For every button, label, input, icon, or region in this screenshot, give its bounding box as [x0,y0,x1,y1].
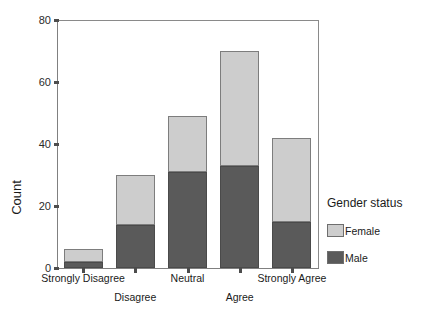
legend-swatch-icon [327,224,344,237]
bar-segment-male[interactable] [168,172,207,268]
plot-border-right [318,20,319,269]
bar-neutral[interactable] [168,116,207,268]
bar-segment-female[interactable] [168,116,207,172]
legend: Gender status FemaleMale [327,196,423,278]
legend-title: Gender status [327,196,423,210]
y-tick-mark [54,267,59,270]
bar-segment-male[interactable] [220,166,259,268]
legend-label: Male [345,252,368,264]
legend-item-male[interactable]: Male [327,251,423,264]
legend-item-female[interactable]: Female [327,224,423,237]
y-tick-label: 40 [39,138,51,150]
x-tick-label: Neutral [171,272,205,284]
bar-segment-female[interactable] [220,51,259,166]
x-tick-label: Strongly Agree [257,272,326,284]
x-tick-mark [239,268,242,273]
y-tick-mark [54,19,59,22]
x-tick-label: Strongly Disagree [41,272,124,284]
y-tick-mark [54,205,59,208]
y-tick-mark [54,143,59,146]
y-tick-label: 20 [39,200,51,212]
y-axis-title: Count [9,158,24,238]
bar-segment-male[interactable] [64,262,103,268]
x-tick-label: Disagree [114,291,156,303]
plot-area: 020406080 [57,20,318,268]
x-tick-mark [134,268,137,273]
y-tick-label: 80 [39,14,51,26]
y-tick-label: 60 [39,76,51,88]
plot-border-top [57,20,319,21]
bar-disagree[interactable] [116,175,155,268]
legend-label: Female [345,225,380,237]
legend-items: FemaleMale [327,224,423,264]
bar-segment-male[interactable] [272,222,311,269]
stacked-bar-chart: Count 020406080 Strongly DisagreeDisagre… [0,0,423,327]
bar-segment-female[interactable] [116,175,155,225]
bar-segment-male[interactable] [116,225,155,268]
bar-segment-female[interactable] [64,249,103,261]
legend-swatch-icon [327,251,344,264]
y-tick-mark [54,81,59,84]
bar-strongly-disagree[interactable] [64,249,103,268]
bar-agree[interactable] [220,51,259,268]
x-tick-label: Agree [226,291,254,303]
bar-segment-female[interactable] [272,138,311,222]
bar-strongly-agree[interactable] [272,138,311,268]
